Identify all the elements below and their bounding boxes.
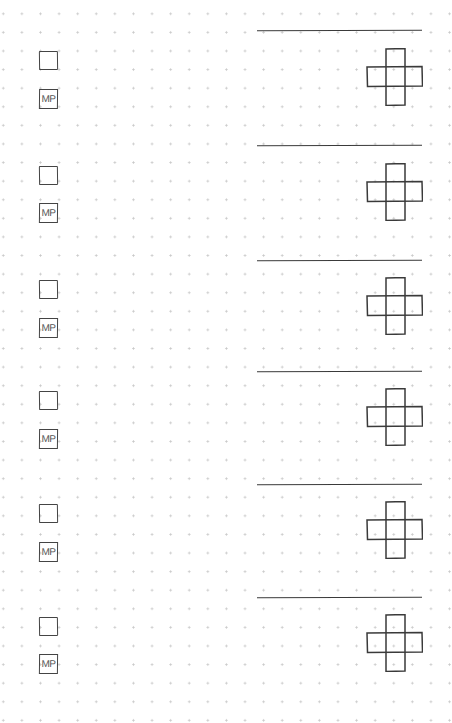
mp-tag: MP bbox=[39, 203, 58, 223]
cross-grid-icon[interactable] bbox=[366, 388, 423, 446]
entry-block: MP bbox=[0, 484, 452, 598]
write-line[interactable] bbox=[257, 484, 422, 485]
cross-grid-icon[interactable] bbox=[366, 277, 423, 335]
entry-block: MP bbox=[0, 30, 452, 144]
entry-block: MP bbox=[0, 371, 452, 485]
write-line[interactable] bbox=[257, 371, 422, 372]
checkbox-icon[interactable] bbox=[39, 617, 58, 636]
cross-grid-icon[interactable] bbox=[366, 163, 423, 221]
entry-block: MP bbox=[0, 260, 452, 374]
checkbox-icon[interactable] bbox=[39, 51, 58, 70]
cross-grid-icon[interactable] bbox=[366, 48, 423, 106]
checkbox-icon[interactable] bbox=[39, 391, 58, 410]
mp-tag: MP bbox=[39, 654, 58, 674]
checkbox-icon[interactable] bbox=[39, 280, 58, 299]
write-line[interactable] bbox=[257, 145, 422, 146]
write-line[interactable] bbox=[257, 597, 422, 598]
mp-tag: MP bbox=[39, 429, 58, 449]
cross-grid-icon[interactable] bbox=[366, 614, 423, 672]
mp-tag: MP bbox=[39, 318, 58, 338]
entry-block: MP bbox=[0, 145, 452, 259]
checkbox-icon[interactable] bbox=[39, 166, 58, 185]
mp-tag: MP bbox=[39, 542, 58, 562]
entry-block: MP bbox=[0, 597, 452, 711]
mp-tag: MP bbox=[39, 89, 58, 109]
write-line[interactable] bbox=[257, 30, 422, 31]
write-line[interactable] bbox=[257, 260, 422, 261]
cross-grid-icon[interactable] bbox=[366, 501, 423, 559]
checkbox-icon[interactable] bbox=[39, 504, 58, 523]
